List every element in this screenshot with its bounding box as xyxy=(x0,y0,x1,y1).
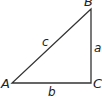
vertex-label-a: A xyxy=(0,76,10,91)
vertex-label-b: B xyxy=(84,0,93,9)
triangle-diagram: B A C c a b xyxy=(0,0,102,98)
side-label-c: c xyxy=(42,35,49,49)
side-label-a: a xyxy=(94,41,101,55)
vertex-label-c: C xyxy=(93,76,102,91)
side-label-b: b xyxy=(48,85,56,98)
triangle-svg: B A C c a b xyxy=(0,0,102,98)
triangle-shape xyxy=(12,9,91,83)
